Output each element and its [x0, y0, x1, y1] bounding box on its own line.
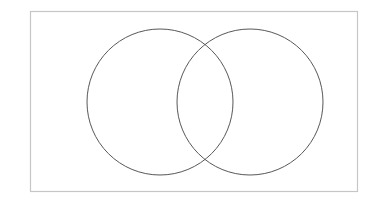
right-only-region[interactable]	[252, 72, 312, 132]
venn-diagram-svg	[0, 0, 382, 208]
venn-diagram-canvas	[0, 0, 382, 208]
intersection-region[interactable]	[183, 80, 227, 124]
outside-region[interactable]	[34, 15, 80, 45]
left-only-region[interactable]	[100, 72, 160, 132]
